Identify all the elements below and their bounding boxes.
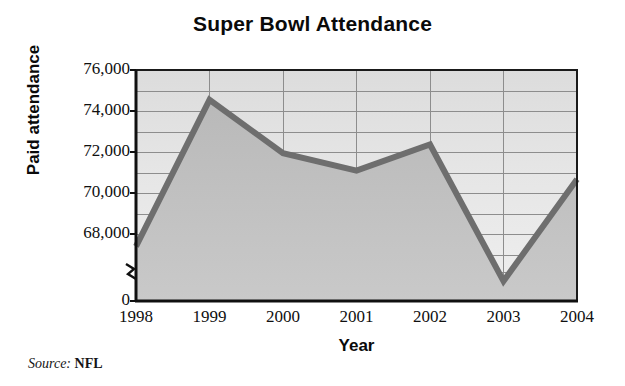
chart-container: Super Bowl Attendance Paid attendance (0, 0, 625, 386)
x-tick-label-1999: 1999 (175, 307, 245, 327)
source-label: Source: (28, 356, 71, 371)
y-tick-label-70000: 70,000 (10, 182, 130, 202)
x-tick-label-2003: 2003 (469, 307, 539, 327)
source-note: Source: NFL (28, 356, 103, 372)
x-tick-label-2004: 2004 (542, 307, 612, 327)
x-tick-label-1998: 1998 (101, 307, 171, 327)
x-axis-title: Year (136, 336, 577, 356)
x-tick-label-2002: 2002 (395, 307, 465, 327)
x-tick-label-2001: 2001 (322, 307, 392, 327)
x-axis-tick-labels: 1998 1999 2000 2001 2002 2003 2004 (0, 307, 625, 335)
y-tick-label-74000: 74,000 (10, 100, 130, 120)
source-value: NFL (75, 356, 103, 371)
y-tick-label-68000: 68,000 (10, 223, 130, 243)
y-tick-label-72000: 72,000 (10, 141, 130, 161)
x-tick-label-2000: 2000 (248, 307, 318, 327)
y-tick-label-76000: 76,000 (10, 59, 130, 79)
